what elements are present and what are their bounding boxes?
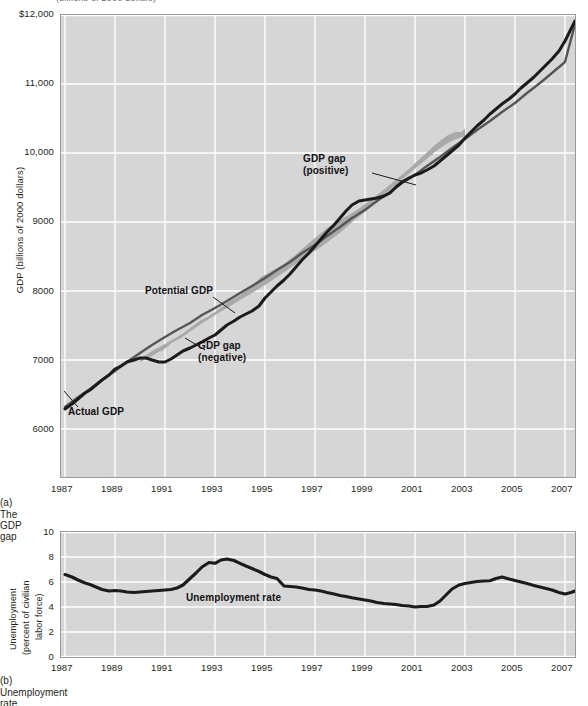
chart-a-leader-potential-gdp: [213, 297, 243, 317]
chart-b-ytick-6: 6: [20, 576, 54, 587]
chart-a-leader-gap-positive: [372, 172, 422, 188]
chart-a-leader-gap-negative: [185, 338, 207, 352]
chart-a-ytick-10000: 10,000: [2, 146, 54, 157]
chart-b-xtick-1991: 1991: [151, 662, 173, 673]
chart-a-xtick-1987: 1987: [51, 483, 73, 494]
chart-a-annotation-gap-negative-line2: (negative): [198, 352, 246, 364]
chart-a-xtick-2005: 2005: [501, 483, 523, 494]
chart-b-xtick-2005: 2005: [501, 662, 523, 673]
chart-b-y-axis-title-line1: Unemployment: [8, 520, 19, 650]
chart-a-annotation-potential-gdp: Potential GDP: [145, 285, 213, 297]
chart-b-xtick-1987: 1987: [51, 662, 73, 673]
chart-b-ytick-10: 10: [20, 526, 54, 537]
chart-b-xtick-1999: 1999: [351, 662, 373, 673]
chart-b-xtick-2003: 2003: [451, 662, 473, 673]
chart-a-ytick-11000: 11,000: [2, 77, 54, 88]
chart-b-annotation-series-label-text: Unemployment rate: [186, 592, 281, 603]
chart-b-ytick-0: 0: [20, 651, 54, 662]
chart-a-ytick-9000: 9000: [2, 215, 54, 226]
chart-a-xtick-1999: 1999: [351, 483, 373, 494]
chart-b-y-axis-title: Unemployment: [8, 520, 19, 650]
chart-a-xtick-1997: 1997: [301, 483, 323, 494]
chart-b-gridlines-horizontal: [61, 533, 575, 657]
chart-b-ytick-8: 8: [20, 551, 54, 562]
chart-b-plot-area: [60, 531, 576, 658]
chart-a-xtick-2001: 2001: [401, 483, 423, 494]
chart-a-annotation-gap-positive-line1: GDP gap: [303, 153, 346, 164]
chart-a-ytick-6000: 6000: [2, 423, 54, 434]
clipped-top-text: (billions of 2000 dollars): [56, 0, 156, 3]
chart-b-xtick-1989: 1989: [101, 662, 123, 673]
chart-a-xtick-1995: 1995: [251, 483, 273, 494]
chart-a-xtick-1991: 1991: [151, 483, 173, 494]
chart-a-plot-area: [60, 14, 576, 478]
chart-b-unemployment-line: [65, 559, 575, 607]
chart-a-gridlines-horizontal: [61, 16, 575, 430]
chart-b-gridlines-vertical: [65, 532, 565, 657]
chart-b-xtick-1997: 1997: [301, 662, 323, 673]
chart-a-y-axis-title: GDP (billions of 2000 dollars): [14, 70, 25, 390]
chart-a-xtick-2007: 2007: [551, 483, 573, 494]
chart-a-svg: [61, 15, 575, 477]
chart-a-ytick-7000: 7000: [2, 354, 54, 365]
chart-b-svg: [61, 532, 575, 657]
chart-a-xtick-1989: 1989: [101, 483, 123, 494]
chart-a-annotation-gap-positive-line2: (positive): [303, 165, 348, 177]
chart-b-xtick-1995: 1995: [251, 662, 273, 673]
chart-b-annotation-series-label: Unemployment rate: [186, 592, 281, 604]
chart-a-xtick-2003: 2003: [451, 483, 473, 494]
chart-b-xtick-1993: 1993: [201, 662, 223, 673]
chart-a-ytick-8000: 8000: [2, 285, 54, 296]
chart-b-ytick-2: 2: [20, 626, 54, 637]
chart-b-xtick-2007: 2007: [551, 662, 573, 673]
chart-a-ytick-12000: $12,000: [2, 8, 54, 19]
chart-a-annotation-potential-gdp-label: Potential GDP: [145, 285, 213, 296]
chart-a-leader-actual-gdp: [62, 391, 82, 409]
chart-a-potential-gdp-line: [65, 24, 575, 407]
chart-a-annotation-gap-positive: GDP gap (positive): [303, 153, 348, 177]
chart-b-xtick-2001: 2001: [401, 662, 423, 673]
chart-a-xtick-1993: 1993: [201, 483, 223, 494]
chart-b-ytick-4: 4: [20, 601, 54, 612]
